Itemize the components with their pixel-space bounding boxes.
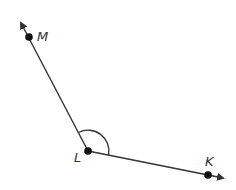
label-k: K <box>205 155 214 168</box>
label-l: L <box>74 151 81 164</box>
point-m <box>25 33 33 41</box>
ray-lk <box>88 151 223 178</box>
point-l <box>84 147 92 155</box>
angle-diagram <box>0 0 236 190</box>
ray-lm <box>21 23 88 151</box>
label-m: M <box>37 30 48 43</box>
point-k <box>204 171 212 179</box>
